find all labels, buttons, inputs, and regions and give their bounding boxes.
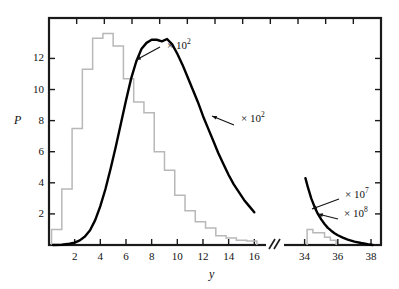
annotation-hist-left-scale: × 102 (167, 37, 191, 51)
exponent: 7 (365, 186, 369, 195)
y-tick-2: 2 (26, 208, 44, 219)
series-histogram-left (52, 34, 257, 245)
x-tick-16: 16 (247, 251, 261, 262)
exponent: 8 (364, 205, 368, 214)
x-tick-6: 6 (119, 251, 133, 262)
x-tick-36: 36 (331, 251, 345, 262)
chart-plot-area (0, 0, 399, 289)
x-tick-10: 10 (170, 251, 184, 262)
x-tick-14: 14 (222, 251, 236, 262)
x-tick-38: 38 (364, 251, 378, 262)
x-tick-34: 34 (298, 251, 312, 262)
annotation-curve-left-scale: × 102 (241, 110, 265, 124)
x-tick-2: 2 (68, 251, 82, 262)
x-tick-4: 4 (93, 251, 107, 262)
y-tick-6: 6 (26, 146, 44, 157)
annotation-hist-right-scale: × 108 (344, 205, 368, 219)
x-axis-title: y (209, 267, 214, 282)
y-tick-12: 12 (26, 52, 44, 63)
x-tick-12: 12 (196, 251, 210, 262)
annotation-curve-right-scale: × 107 (345, 186, 369, 200)
x-tick-8: 8 (145, 251, 159, 262)
y-axis-title: P (14, 113, 21, 128)
figure-container: 24681012 246810121416343638 P y × 102 × … (0, 0, 399, 289)
exponent: 2 (187, 37, 191, 46)
exponent: 2 (261, 110, 265, 119)
y-tick-10: 10 (26, 84, 44, 95)
y-tick-8: 8 (26, 115, 44, 126)
y-tick-4: 4 (26, 177, 44, 188)
